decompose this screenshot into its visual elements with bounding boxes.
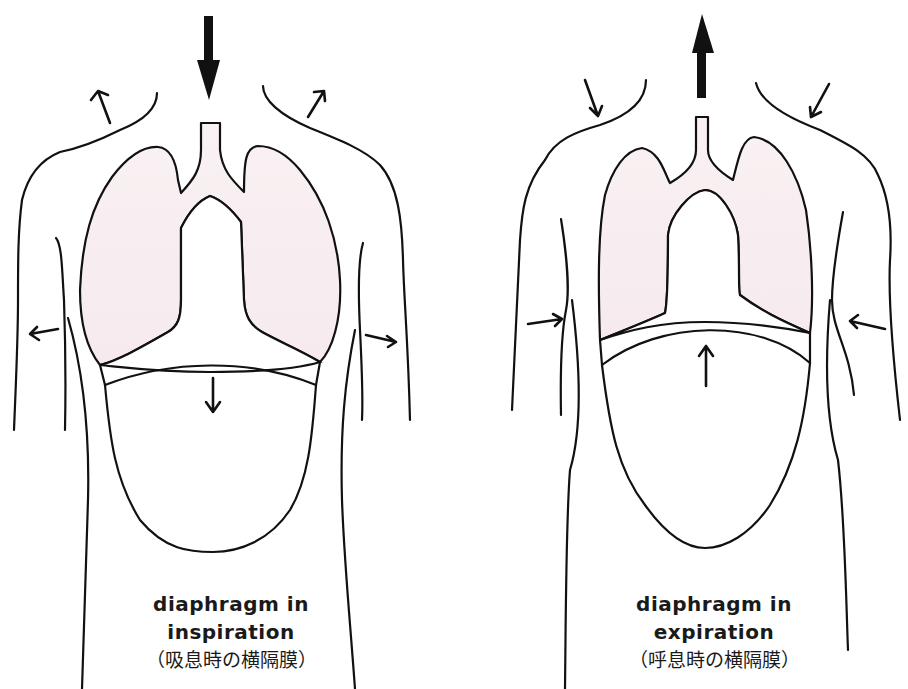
- ribcage-out-arrow-icon-right: [366, 335, 396, 347]
- caption-line-1: diaphragm in: [111, 590, 351, 618]
- caption-line-2: expiration: [594, 618, 834, 646]
- caption-japanese: （吸息時の横隔膜）: [111, 646, 351, 674]
- breathing-diagram: [0, 0, 908, 689]
- shoulder-up-arrow-icon-left: [91, 91, 110, 123]
- shoulder-up-arrow-icon-right: [308, 91, 325, 117]
- ribcage-in-arrow-icon-left: [528, 314, 562, 326]
- ribcage-in-arrow-icon-right: [850, 315, 885, 329]
- shoulder-down-arrow-icon-left: [585, 80, 602, 116]
- inspiration-caption: diaphragm in inspiration （吸息時の横隔膜）: [111, 590, 351, 674]
- caption-line-2: inspiration: [111, 618, 351, 646]
- caption-line-1: diaphragm in: [594, 590, 834, 618]
- rib-cage-lower: [100, 362, 320, 552]
- left-arm-inner-expiration: [561, 219, 568, 415]
- torso-left-side-expiration: [565, 300, 579, 689]
- right-arm-inner: [359, 243, 363, 420]
- diaphragm-up-arrow-icon: [699, 346, 713, 386]
- torso-left-side: [68, 318, 88, 689]
- left-arm-inner: [56, 238, 65, 430]
- airflow-in-arrow-icon: [197, 16, 220, 100]
- inspiration-figure: [14, 16, 410, 689]
- right-arm-inner-expiration: [832, 212, 854, 395]
- expiration-figure: [512, 14, 900, 689]
- diaphragm-down-arrow-icon: [206, 378, 220, 412]
- airflow-out-arrow-icon: [692, 14, 714, 98]
- caption-japanese: （呼息時の横隔膜）: [594, 646, 834, 674]
- ribcage-out-arrow-icon-left: [30, 327, 58, 340]
- expiration-caption: diaphragm in expiration （呼息時の横隔膜）: [594, 590, 834, 674]
- shoulder-down-arrow-icon-right: [810, 84, 829, 117]
